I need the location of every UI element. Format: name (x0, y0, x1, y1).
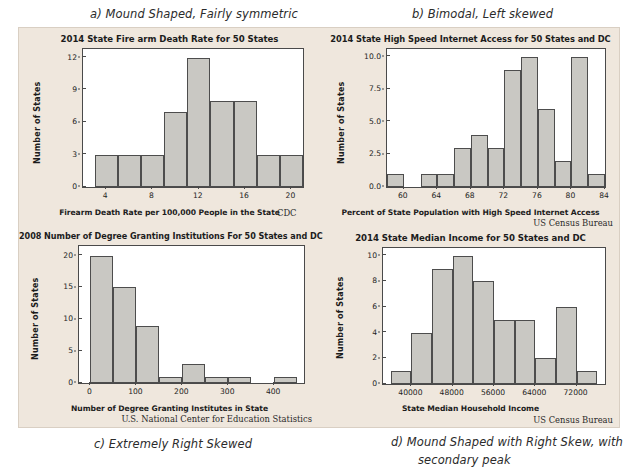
source-note-c: U.S. National Center for Education Stati… (121, 414, 312, 424)
histogram-bar (141, 155, 164, 187)
histogram-bar (432, 269, 453, 384)
y-axis-label-d: Number of States (336, 276, 345, 359)
y-tick-mark (79, 350, 82, 351)
bars-a (83, 49, 303, 187)
histogram-bar (210, 101, 233, 187)
x-tick-label: 12 (193, 191, 203, 200)
histogram-bar (453, 256, 474, 384)
x-tick-label: 0 (87, 387, 92, 396)
y-tick-label: 4 (320, 327, 380, 336)
x-tick-label: 64000 (522, 388, 546, 397)
y-tick-mark (83, 186, 86, 187)
y-tick-label: 9 (19, 84, 80, 93)
histogram-bar (182, 364, 205, 383)
y-tick-mark (387, 120, 390, 121)
y-tick-label: 0.0 (320, 182, 384, 191)
x-tick-mark (534, 383, 535, 386)
y-tick-label: 7.5 (320, 84, 384, 93)
chart-panel-a: 2014 State Fire arm Death Rate for 50 St… (19, 28, 320, 228)
x-tick-mark (135, 382, 136, 385)
caption-a: a) Mound Shaped, Fairly symmetric (90, 7, 298, 21)
histogram-bar (555, 161, 572, 187)
y-tick-label: 10.0 (320, 51, 384, 60)
source-note-d: US Census Bureau (533, 415, 613, 425)
source-note-a: CDC (277, 208, 297, 218)
histogram-bar (391, 371, 412, 384)
x-axis-label-b: Percent of State Population with High Sp… (320, 208, 621, 217)
y-tick-label: 10 (320, 250, 380, 259)
y-tick-mark (383, 357, 386, 358)
x-tick-mark (503, 186, 504, 189)
x-tick-mark (452, 383, 453, 386)
plot-area-d (382, 247, 606, 385)
histogram-bar (280, 155, 303, 187)
x-tick-mark (410, 383, 411, 386)
histogram-bar (411, 333, 432, 384)
y-tick-mark (83, 121, 86, 122)
y-tick-mark (387, 153, 390, 154)
x-tick-mark (198, 186, 199, 189)
x-tick-label: 8 (149, 191, 154, 200)
histogram-bar (205, 377, 228, 383)
x-tick-mark (604, 186, 605, 189)
histogram-bar (571, 57, 588, 187)
y-tick-mark (79, 286, 82, 287)
y-tick-mark (79, 318, 82, 319)
y-tick-mark (383, 383, 386, 384)
y-tick-label: 10 (19, 314, 76, 323)
x-tick-mark (493, 383, 494, 386)
y-tick-label: 2 (320, 353, 380, 362)
caption-c: c) Extremely Right Skewed (94, 437, 252, 451)
y-tick-mark (383, 306, 386, 307)
x-tick-mark (105, 186, 106, 189)
y-tick-label: 2.5 (320, 149, 384, 158)
bars-d (383, 248, 605, 384)
x-tick-label: 4 (103, 191, 108, 200)
figure-block: 2014 State Fire arm Death Rate for 50 St… (18, 27, 620, 428)
histogram-bar (187, 58, 210, 187)
chart-title-c: 2008 Number of Degree Granting Instituti… (19, 231, 320, 241)
y-tick-label: 12 (19, 52, 80, 61)
y-tick-label: 0 (19, 378, 76, 387)
x-axis-label-a: Firearm Death Rate per 100,000 People in… (19, 208, 320, 217)
chart-title-b: 2014 State High Speed Internet Access fo… (320, 34, 621, 44)
x-tick-label: 64 (431, 191, 441, 200)
x-tick-label: 56000 (481, 388, 505, 397)
y-tick-mark (383, 331, 386, 332)
y-tick-mark (83, 56, 86, 57)
x-tick-label: 16 (239, 191, 249, 200)
y-tick-label: 3 (19, 149, 80, 158)
histogram-bar (228, 377, 251, 383)
figure-page: a) Mound Shaped, Fairly symmetric b) Bim… (0, 0, 637, 469)
y-tick-mark (387, 55, 390, 56)
x-tick-mark (436, 186, 437, 189)
x-tick-mark (403, 186, 404, 189)
y-tick-label: 0 (19, 182, 80, 191)
x-tick-label: 200 (174, 387, 189, 396)
y-tick-label: 20 (19, 250, 76, 259)
plot-area-c (78, 245, 305, 384)
histogram-bar (164, 112, 187, 187)
histogram-bar (588, 174, 605, 187)
chart-panel-b: 2014 State High Speed Internet Access fo… (320, 28, 621, 228)
histogram-bar (471, 135, 488, 187)
x-tick-label: 300 (220, 387, 235, 396)
x-tick-mark (273, 382, 274, 385)
x-tick-mark (89, 382, 90, 385)
histogram-bar (577, 371, 598, 384)
x-tick-label: 84 (599, 191, 609, 200)
x-tick-mark (470, 186, 471, 189)
histogram-bar (535, 358, 556, 384)
caption-d-line2: secondary peak (418, 453, 511, 467)
histogram-bar (421, 174, 438, 187)
chart-panel-c: 2008 Number of Degree Granting Instituti… (19, 228, 320, 429)
y-tick-label: 6 (19, 117, 80, 126)
histogram-bar (113, 287, 136, 383)
x-tick-label: 60 (398, 191, 408, 200)
y-tick-mark (79, 254, 82, 255)
chart-title-d: 2014 State Median Income for 50 States a… (320, 233, 621, 243)
y-tick-mark (387, 88, 390, 89)
histogram-bar (159, 377, 182, 383)
y-tick-mark (83, 153, 86, 154)
histogram-bar (494, 320, 515, 384)
